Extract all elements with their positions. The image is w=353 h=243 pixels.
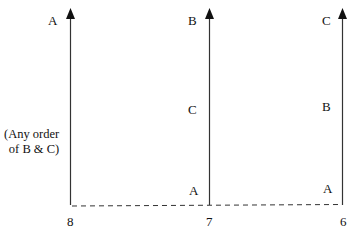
vertical-arrow-6	[338, 8, 347, 205]
label-7-middle: C	[188, 103, 197, 117]
vertical-arrow-8	[66, 8, 75, 205]
label-6-bottom: A	[323, 182, 332, 196]
order-note: (Any order of B & C)	[4, 127, 59, 157]
dashed-baseline	[72, 205, 342, 207]
axis-label-6: 6	[340, 215, 347, 229]
order-note-line-1: (Any order	[4, 127, 59, 142]
label-6-middle: B	[322, 100, 331, 114]
axis-label-7: 7	[206, 215, 213, 229]
label-8-top: A	[48, 14, 57, 28]
axis-label-8: 8	[67, 215, 74, 229]
vertical-arrow-7	[205, 8, 214, 205]
diagram-canvas	[0, 0, 353, 243]
label-7-bottom: A	[189, 184, 198, 198]
order-note-line-2: of B & C)	[4, 142, 59, 157]
arrowhead-icon	[338, 8, 347, 19]
arrowhead-icon	[66, 8, 75, 19]
label-7-top: B	[188, 14, 197, 28]
arrowhead-icon	[205, 8, 214, 19]
label-6-top: C	[322, 14, 331, 28]
